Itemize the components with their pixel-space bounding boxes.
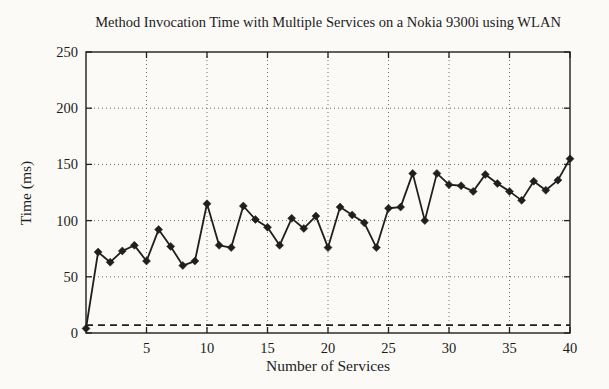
y-tick-label: 50 <box>64 269 79 285</box>
data-point-marker <box>397 203 405 211</box>
data-point-marker <box>215 241 223 249</box>
y-tick-label: 150 <box>56 156 78 172</box>
y-axis-title: Time (ms) <box>17 161 35 225</box>
chart-canvas: Method Invocation Time with Multiple Ser… <box>0 0 609 389</box>
chart-title: Method Invocation Time with Multiple Ser… <box>95 14 561 30</box>
y-tick-label: 100 <box>56 213 78 229</box>
data-point-marker <box>409 169 417 177</box>
x-tick-label: 30 <box>442 340 457 356</box>
data-point-marker <box>324 244 332 252</box>
plot-area: 050100150200250510152025303540 <box>56 44 577 356</box>
x-tick-label: 5 <box>143 340 150 356</box>
x-tick-label: 35 <box>502 340 517 356</box>
y-tick-label: 200 <box>56 100 78 116</box>
data-point-marker <box>227 244 235 252</box>
data-point-marker <box>385 204 393 212</box>
x-tick-label: 25 <box>381 340 396 356</box>
chart-figure: Method Invocation Time with Multiple Ser… <box>0 0 609 389</box>
data-point-marker <box>566 155 574 163</box>
y-tick-label: 250 <box>56 44 78 60</box>
x-tick-label: 10 <box>200 340 215 356</box>
data-point-marker <box>457 182 465 190</box>
data-point-marker <box>203 200 211 208</box>
data-point-marker <box>421 217 429 225</box>
x-tick-label: 40 <box>563 340 578 356</box>
data-point-marker <box>191 257 199 265</box>
x-tick-label: 15 <box>260 340 275 356</box>
y-tick-label: 0 <box>71 325 78 341</box>
data-point-marker <box>372 244 380 252</box>
x-axis-title: Number of Services <box>266 357 390 374</box>
x-tick-label: 20 <box>321 340 336 356</box>
